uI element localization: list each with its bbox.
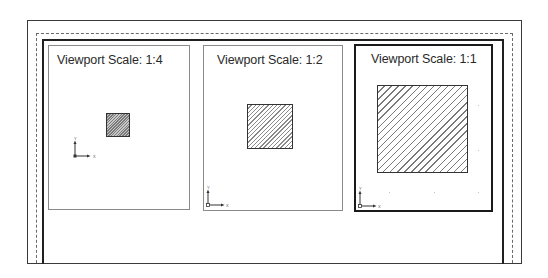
grid-dot xyxy=(389,192,390,193)
hatched-square[interactable] xyxy=(106,113,130,137)
hatched-square[interactable] xyxy=(377,85,468,173)
viewport-title: Viewport Scale: 1:2 xyxy=(217,53,323,67)
grid-dot xyxy=(478,192,479,193)
svg-text:Y: Y xyxy=(74,137,77,141)
viewport-title: Viewport Scale: 1:1 xyxy=(371,52,477,66)
ucs-icon: Y X xyxy=(356,186,386,210)
svg-text:X: X xyxy=(93,154,96,159)
svg-text:Y: Y xyxy=(207,185,210,190)
grid-dot xyxy=(478,105,479,106)
svg-text:Y: Y xyxy=(359,186,362,191)
ucs-icon: Y X xyxy=(71,137,101,161)
svg-text:X: X xyxy=(378,204,381,209)
hatched-square[interactable] xyxy=(247,104,293,149)
viewport-1-1-active[interactable]: Viewport Scale: 1:1 Y X xyxy=(354,44,493,212)
ucs-icon: Y X xyxy=(204,185,234,209)
printable-area-right-edge xyxy=(512,33,513,263)
viewport-1-4[interactable]: Viewport Scale: 1:4 Y X xyxy=(48,45,190,210)
svg-text:X: X xyxy=(226,203,229,208)
printable-area-top-edge xyxy=(36,33,513,34)
viewport-title: Viewport Scale: 1:4 xyxy=(57,53,163,67)
printable-area-left-edge xyxy=(36,33,37,263)
viewport-1-2[interactable]: Viewport Scale: 1:2 Y X xyxy=(203,45,343,211)
grid-dot xyxy=(478,150,479,151)
grid-dot xyxy=(434,192,435,193)
